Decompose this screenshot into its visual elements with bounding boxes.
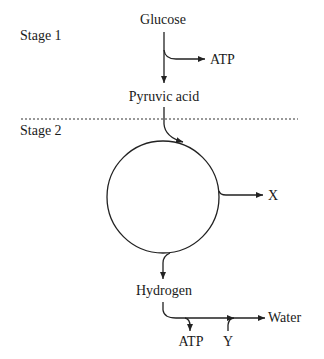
stage-2-label: Stage 2 [20, 123, 62, 138]
krebs-cycle-circle [107, 141, 219, 253]
y-to-water-arrow [228, 318, 234, 331]
stage-1-label: Stage 1 [20, 28, 62, 43]
hydrogen-to-water-arrow [163, 302, 265, 318]
glucose-to-atp-arrow [164, 50, 205, 59]
cycle-to-x-arrow [219, 191, 263, 195]
to-atp-stage2-arrow [185, 318, 190, 331]
hydrogen-label: Hydrogen [136, 283, 192, 298]
atp-stage1-label: ATP [210, 52, 235, 67]
x-label: X [268, 188, 278, 203]
cycle-to-hydrogen-arrow [163, 253, 170, 279]
y-label: Y [223, 334, 233, 349]
respiration-diagram: Stage 1 Stage 2 Glucose ATP Pyruvic acid… [0, 0, 324, 359]
water-label: Water [268, 310, 301, 325]
pyruvic-acid-label: Pyruvic acid [129, 89, 199, 104]
pyruvic-to-cycle-arrow [164, 107, 183, 142]
atp-stage2-label: ATP [179, 334, 204, 349]
glucose-label: Glucose [140, 12, 186, 27]
